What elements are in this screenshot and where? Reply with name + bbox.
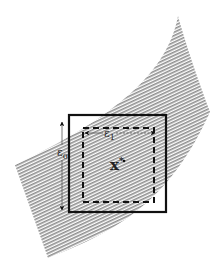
diagram-canvas: ε0 ε1 x* [0,0,223,275]
point-marker [123,160,126,163]
